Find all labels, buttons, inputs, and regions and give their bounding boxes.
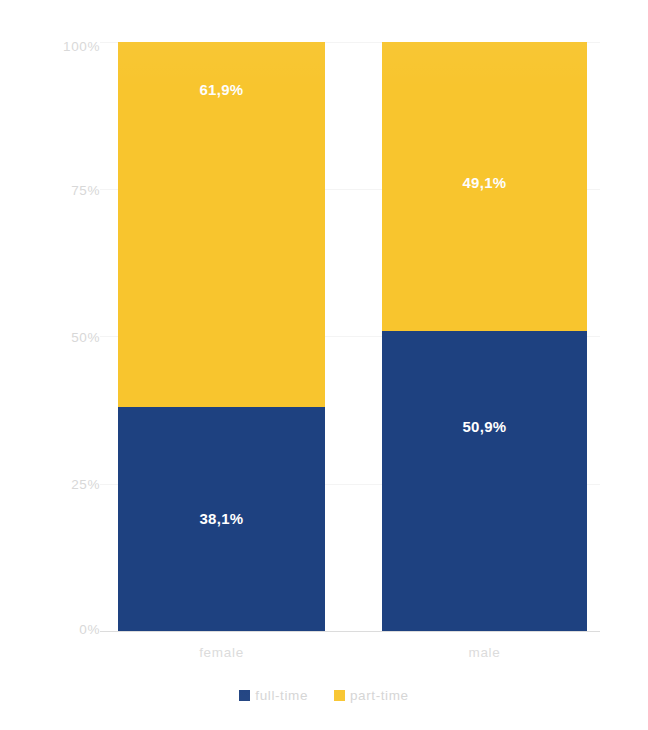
bar-female-part-time-value: 61,9% [199, 81, 243, 98]
plot-area: 61,9% 38,1% 49,1% 50,9% [0, 0, 648, 660]
bar-male-part-time-value: 49,1% [462, 174, 506, 191]
bar-male[interactable]: 49,1% 50,9% [382, 42, 587, 631]
bar-female-segment-part-time[interactable]: 61,9% [118, 42, 325, 407]
bar-male-segment-full-time[interactable]: 50,9% [382, 331, 587, 631]
legend-label-part-time: part-time [350, 688, 409, 703]
chart-legend: full-time part-time [0, 688, 648, 703]
legend-swatch-part-time [334, 690, 345, 701]
bar-female-full-time-value: 38,1% [199, 510, 243, 527]
legend-swatch-full-time [239, 690, 250, 701]
x-tick-label-female: female [118, 645, 325, 660]
bar-female-segment-full-time[interactable]: 38,1% [118, 407, 325, 631]
bar-male-full-time-value: 50,9% [462, 418, 506, 435]
legend-item-full-time[interactable]: full-time [239, 688, 308, 703]
bar-male-segment-part-time[interactable]: 49,1% [382, 42, 587, 331]
stacked-bar-chart: 100% 75% 50% 25% 0% 61,9% 38,1% 49,1% 50… [0, 0, 648, 730]
legend-item-part-time[interactable]: part-time [334, 688, 409, 703]
bar-female[interactable]: 61,9% 38,1% [118, 42, 325, 631]
legend-label-full-time: full-time [255, 688, 308, 703]
x-tick-label-male: male [382, 645, 587, 660]
